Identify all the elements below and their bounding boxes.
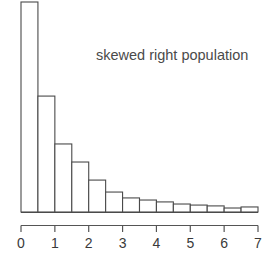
x-axis-tick-label: 6 <box>220 235 228 251</box>
histogram-svg: 01234567 skewed right population <box>0 0 272 260</box>
histogram-bar <box>89 180 106 212</box>
histogram-bar <box>224 208 241 212</box>
histogram-bar <box>190 205 207 212</box>
histogram-bar <box>38 96 55 212</box>
x-axis-tick-label: 5 <box>186 235 194 251</box>
histogram-figure: 01234567 skewed right population <box>0 0 272 260</box>
histogram-bar <box>173 204 190 212</box>
histogram-bar <box>140 200 157 212</box>
x-axis-tick-label: 2 <box>85 235 93 251</box>
histogram-bar <box>21 2 38 212</box>
histogram-bar <box>156 202 173 212</box>
histogram-bar <box>123 198 140 212</box>
x-axis-ticks <box>21 226 258 233</box>
x-axis-tick-label: 1 <box>51 235 59 251</box>
bars-group <box>21 2 258 212</box>
x-axis-tick-label: 7 <box>254 235 262 251</box>
x-axis-tick-label: 3 <box>119 235 127 251</box>
histogram-bar <box>72 162 89 212</box>
histogram-bar <box>241 207 258 212</box>
x-axis-tick-label: 4 <box>153 235 161 251</box>
histogram-bar <box>55 144 72 212</box>
x-axis-tick-label: 0 <box>17 235 25 251</box>
x-axis-tick-labels: 01234567 <box>17 235 262 251</box>
chart-annotation: skewed right population <box>96 47 248 63</box>
histogram-bar <box>106 192 123 212</box>
histogram-bar <box>207 206 224 212</box>
